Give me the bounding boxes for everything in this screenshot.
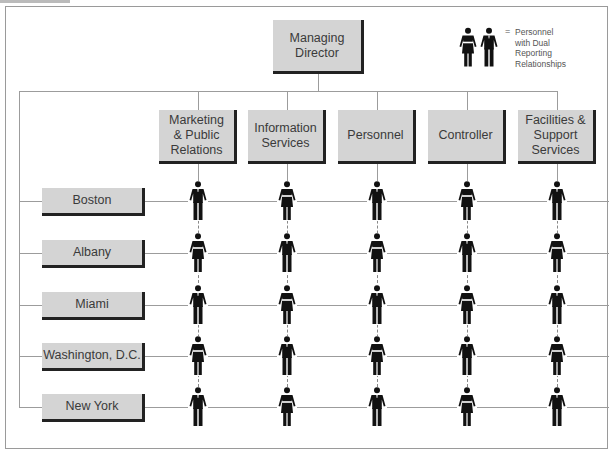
male-personnel-icon [457,336,477,376]
female-personnel-icon [367,336,387,376]
root-stem-line [318,74,319,91]
department-box: Personnel [338,110,416,164]
department-drop-line [467,91,468,110]
female-personnel-icon [188,336,208,376]
legend-line: Personnel [515,27,566,38]
department-label-line: & Public [169,128,224,143]
department-drop-line [287,91,288,110]
department-box: InformationServices [248,110,326,164]
department-label-line: Services [254,136,317,151]
female-personnel-icon [277,387,297,427]
office-label: Washington, D.C. [43,348,141,363]
male-personnel-icon [188,387,208,427]
male-personnel-icon [188,181,208,221]
office-box: Washington, D.C. [42,343,145,371]
male-personnel-icon [457,233,477,273]
office-box: Boston [42,188,145,216]
female-personnel-icon [457,285,477,325]
department-label-line: Controller [438,128,492,143]
root-label-line: Managing [290,31,345,46]
department-stem-line [287,164,288,181]
department-stem-line [557,164,558,181]
managing-director-box: ManagingDirector [273,20,364,74]
department-label-line: Personnel [347,128,403,143]
male-personnel-icon [367,285,387,325]
department-label-line: Services [525,143,585,158]
department-label-line: Relations [169,143,224,158]
department-label-line: Marketing [169,113,224,128]
department-box: Marketing& PublicRelations [159,110,237,164]
managing-director-label: ManagingDirector [290,31,345,61]
department-drop-line [377,91,378,110]
female-personnel-icon [367,233,387,273]
female-personnel-icon [547,233,567,273]
department-trunk-line [19,91,558,92]
male-personnel-icon [547,181,567,221]
legend-text: Personnel with Dual Reporting Relationsh… [515,27,566,69]
male-personnel-icon [188,285,208,325]
office-box: Miami [42,292,145,320]
department-drop-line [198,91,199,110]
male-personnel-icon [367,387,387,427]
office-label: Boston [73,193,112,208]
office-label: New York [66,399,119,414]
male-personnel-icon [547,285,567,325]
department-box: Controller [428,110,506,164]
department-label-line: Information [254,121,317,136]
department-label-line: Support [525,128,585,143]
department-drop-line [557,91,558,110]
male-personnel-icon [547,387,567,427]
female-personnel-icon [457,181,477,221]
legend-male-icon [479,26,499,69]
male-personnel-icon [367,181,387,221]
department-stem-line [377,164,378,181]
legend-line: Reporting [515,48,566,59]
female-personnel-icon [277,181,297,221]
female-personnel-icon [188,233,208,273]
root-label-line: Director [290,46,345,61]
office-trunk-line [19,91,20,408]
male-personnel-icon [277,336,297,376]
office-box: Albany [42,240,145,268]
department-label-line: Facilities & [525,113,585,128]
legend-line: with Dual [515,38,566,49]
office-box: New York [42,394,145,422]
clipped-caption [0,0,70,3]
department-stem-line [467,164,468,181]
legend-female-icon [458,26,478,69]
female-personnel-icon [277,285,297,325]
department-box: Facilities &SupportServices [518,110,596,164]
office-label: Miami [75,297,108,312]
female-personnel-icon [457,387,477,427]
legend-equals: = [505,26,510,36]
office-label: Albany [73,245,111,260]
male-personnel-icon [277,233,297,273]
female-personnel-icon [547,336,567,376]
department-stem-line [198,164,199,181]
legend-line: Relationships [515,59,566,70]
